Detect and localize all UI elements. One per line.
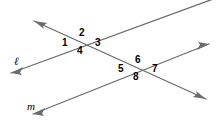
line-label-l: ℓ xyxy=(14,56,19,67)
geometry-diagram: ℓ m 1 2 3 4 5 6 7 8 xyxy=(0,0,217,129)
angle-label-4: 4 xyxy=(77,46,83,56)
angle-label-6: 6 xyxy=(135,55,141,65)
transversal-arrow-end-icon xyxy=(193,91,206,99)
angle-label-1: 1 xyxy=(62,38,68,48)
line-label-m: m xyxy=(27,101,35,112)
angle-label-3: 3 xyxy=(95,38,101,48)
line-l-stroke xyxy=(11,0,216,73)
angle-label-7: 7 xyxy=(152,64,158,74)
transversal-arrow-start-icon xyxy=(34,21,47,29)
angle-label-2: 2 xyxy=(79,28,85,38)
line-group xyxy=(11,0,216,116)
line-m-arrow-end-icon xyxy=(197,42,209,50)
angle-label-5: 5 xyxy=(118,64,124,74)
line-l-arrow-start-icon xyxy=(11,67,23,75)
angle-label-8: 8 xyxy=(133,72,139,82)
line-m-stroke xyxy=(33,44,209,114)
